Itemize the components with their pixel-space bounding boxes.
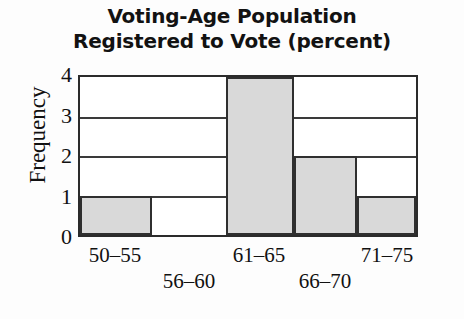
chart-title: Voting-Age Population Registered to Vote…	[0, 4, 464, 54]
y-tick-label-2: 2	[46, 145, 72, 167]
y-axis-tick-labels: 4 3 2 1 0	[40, 75, 72, 237]
chart-title-line-2: Registered to Vote (percent)	[0, 29, 464, 54]
bar-50-55	[80, 196, 152, 236]
bar-66-70	[294, 156, 357, 235]
x-axis-tick-labels: 50–55 56–60 61–65 66–70 71–75	[0, 243, 464, 313]
x-tick-label-66-70: 66–70	[292, 269, 358, 293]
bar-71-75	[357, 196, 416, 236]
y-tick-label-4: 4	[46, 64, 72, 86]
plot-inner	[80, 77, 416, 235]
chart-title-line-1: Voting-Age Population	[0, 4, 464, 29]
y-tick-label-3: 3	[46, 105, 72, 127]
x-tick-label-61-65: 61–65	[224, 243, 294, 267]
x-tick-label-71-75: 71–75	[355, 243, 419, 267]
plot-area	[78, 75, 418, 237]
bar-61-65	[226, 77, 294, 235]
y-tick-label-1: 1	[46, 186, 72, 208]
x-tick-label-50-55: 50–55	[78, 243, 152, 267]
x-tick-label-56-60: 56–60	[152, 269, 226, 293]
